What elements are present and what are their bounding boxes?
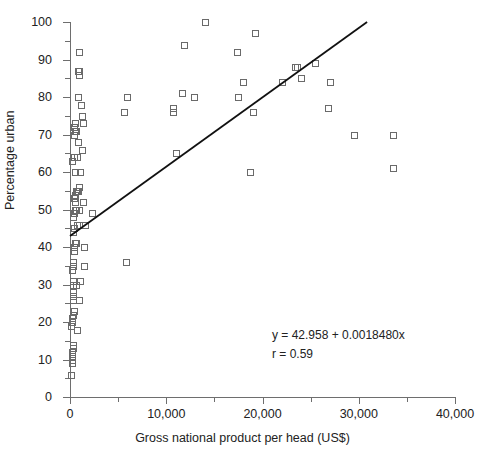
y-tick-label: 100	[31, 16, 52, 29]
x-tick-label: 20,000	[243, 408, 281, 421]
y-tick-major: 100	[63, 22, 70, 23]
x-tick-major	[455, 397, 456, 404]
x-tick-minor	[407, 397, 408, 402]
y-tick-major: 40	[63, 247, 70, 248]
y-tick-major: 80	[63, 97, 70, 98]
y-tick-label: 70	[38, 128, 52, 141]
regression-equation: y = 42.958 + 0.0018480x	[272, 326, 405, 345]
x-tick-minor	[118, 397, 119, 402]
y-tick-major: 0	[63, 397, 70, 398]
y-tick-label: 10	[38, 353, 52, 366]
y-tick-label: 20	[38, 316, 52, 329]
x-tick-major	[263, 397, 264, 404]
x-tick-major	[359, 397, 360, 404]
x-tick-major	[70, 397, 71, 404]
y-tick-label: 0	[45, 391, 52, 404]
y-tick-label: 90	[38, 53, 52, 66]
y-tick-label: 50	[38, 203, 52, 216]
x-tick-minor	[214, 397, 215, 402]
y-tick-label: 60	[38, 166, 52, 179]
y-axis-title: Percentage urban	[4, 111, 17, 210]
x-tick-label: 0	[67, 408, 74, 421]
x-axis-title: Gross national product per head (US$)	[0, 432, 485, 445]
y-tick-label: 80	[38, 91, 52, 104]
y-tick-major: 90	[63, 60, 70, 61]
x-tick-major	[166, 397, 167, 404]
x-tick-label: 40,000	[436, 408, 474, 421]
regression-annotation: y = 42.958 + 0.0018480x r = 0.59	[272, 326, 405, 363]
scatter-plot-figure: Percentage urban 0102030405060708090100 …	[0, 0, 485, 463]
y-tick-major: 70	[63, 135, 70, 136]
y-tick-label: 30	[38, 278, 52, 291]
y-tick-label: 40	[38, 241, 52, 254]
y-tick-major: 60	[63, 172, 70, 173]
x-tick-minor	[311, 397, 312, 402]
x-tick-label: 10,000	[147, 408, 185, 421]
correlation-coefficient: r = 0.59	[272, 345, 405, 364]
x-tick-label: 30,000	[340, 408, 378, 421]
y-tick-major: 50	[63, 210, 70, 211]
